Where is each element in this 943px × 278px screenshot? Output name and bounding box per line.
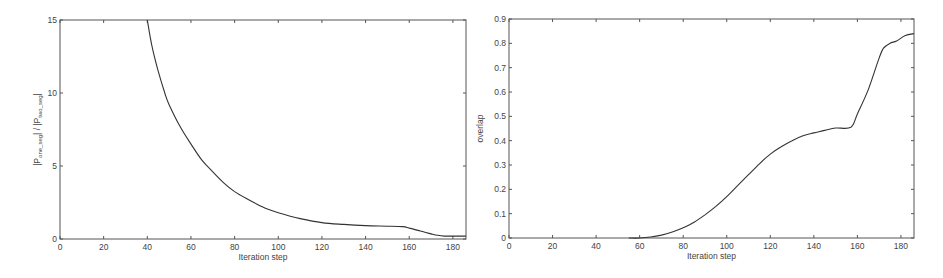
ratio-curve <box>147 20 466 236</box>
ratio-x-ticks: 020406080100120140160180 <box>58 20 461 252</box>
ylabel-part-2: | / |P <box>32 117 42 135</box>
x-tick-label: 0 <box>507 241 512 251</box>
ratio-y-axis-label: |Pone_seg| / |Ptwo_seg| <box>32 93 43 166</box>
x-tick-label: 80 <box>230 242 240 252</box>
ratio-y-ticks: 051015 <box>48 15 466 244</box>
y-tick-label: 0.6 <box>494 87 506 97</box>
y-tick-label: 0.4 <box>494 136 506 146</box>
overlap-y-axis-label: overlap <box>475 114 485 142</box>
y-tick-label: 0.9 <box>494 14 506 24</box>
x-tick-label: 160 <box>402 242 416 252</box>
y-tick-label: 0.1 <box>494 209 506 219</box>
x-tick-label: 60 <box>186 242 196 252</box>
x-tick-label: 60 <box>635 241 645 251</box>
x-tick-label: 120 <box>315 242 329 252</box>
x-tick-label: 160 <box>850 241 864 251</box>
x-tick-label: 100 <box>271 242 285 252</box>
y-tick-label: 0 <box>52 234 57 244</box>
y-tick-label: 0.5 <box>494 111 506 121</box>
overlap-axes-frame <box>509 19 914 238</box>
y-tick-label: 0.3 <box>494 160 506 170</box>
ylabel-part-3: | <box>32 93 42 95</box>
x-tick-label: 40 <box>591 241 601 251</box>
x-tick-label: 120 <box>763 241 777 251</box>
x-tick-label: 180 <box>894 241 908 251</box>
x-tick-label: 0 <box>58 242 63 252</box>
ylabel-sub-1: one_seg <box>37 135 43 158</box>
y-tick-label: 0 <box>501 233 506 243</box>
ylabel-sub-2: two_seg <box>37 95 43 117</box>
overlap-x-ticks: 020406080100120140160180 <box>507 19 909 251</box>
overlap-y-ticks: 00.10.20.30.40.50.60.70.80.9 <box>494 14 914 243</box>
x-tick-label: 20 <box>99 242 109 252</box>
y-tick-label: 10 <box>48 88 58 98</box>
x-tick-label: 100 <box>720 241 734 251</box>
y-tick-label: 0.2 <box>494 184 506 194</box>
y-tick-label: 5 <box>52 161 57 171</box>
ratio-axes-frame <box>60 20 466 239</box>
x-tick-label: 80 <box>678 241 688 251</box>
figure: 051015 020406080100120140160180 Iteratio… <box>0 0 943 278</box>
overlap-chart: 00.10.20.30.40.50.60.70.80.9 02040608010… <box>475 14 914 261</box>
overlap-x-axis-label: Iteration step <box>687 251 736 261</box>
x-tick-label: 40 <box>143 242 153 252</box>
y-tick-label: 0.7 <box>494 63 506 73</box>
overlap-curve <box>629 34 914 238</box>
ratio-chart: 051015 020406080100120140160180 Iteratio… <box>32 15 466 262</box>
x-tick-label: 140 <box>807 241 821 251</box>
y-tick-label: 0.8 <box>494 38 506 48</box>
y-tick-label: 15 <box>48 15 58 25</box>
x-tick-label: 140 <box>358 242 372 252</box>
x-tick-label: 20 <box>548 241 558 251</box>
ratio-x-axis-label: Iteration step <box>238 252 287 262</box>
x-tick-label: 180 <box>446 242 460 252</box>
